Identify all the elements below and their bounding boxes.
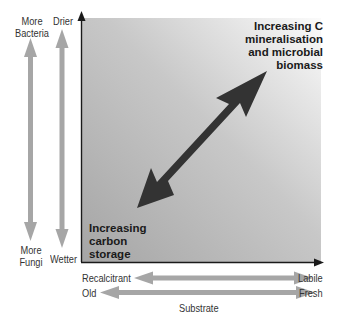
more-label: More — [14, 244, 47, 256]
bacteria-fungi-arrow-icon — [24, 38, 37, 241]
more-fungi-label: More Fungi — [14, 244, 47, 268]
labile-label: Labile — [298, 272, 323, 284]
annotation-line: biomass — [245, 59, 323, 72]
carbon-storage-annotation: Increasing carbon storage — [89, 222, 147, 261]
substrate-title: Substrate — [179, 302, 219, 314]
mineralisation-annotation: Increasing C mineralisation and microbia… — [245, 20, 323, 72]
annotation-line: storage — [89, 248, 147, 261]
old-fresh-arrow-icon — [100, 286, 315, 299]
annotation-line: Increasing C — [245, 20, 323, 33]
wetter-label: Wetter — [50, 253, 77, 265]
annotation-line: carbon — [89, 235, 147, 248]
fresh-label: Fresh — [299, 287, 323, 299]
bacteria-label: Bacteria — [14, 27, 49, 39]
drier-label: Drier — [53, 15, 73, 27]
drier-wetter-arrow-icon — [56, 29, 69, 248]
recalcitrant-label: Recalcitrant — [82, 272, 131, 284]
more-bacteria-label: More Bacteria — [14, 15, 49, 39]
annotation-line: and microbial — [245, 46, 323, 59]
more-label: More — [14, 15, 49, 27]
old-label: Old — [82, 287, 96, 299]
annotation-line: mineralisation — [245, 33, 323, 46]
annotation-line: Increasing — [89, 222, 147, 235]
recalcitrant-labile-arrow-icon — [134, 272, 313, 285]
fungi-label: Fungi — [14, 256, 47, 268]
